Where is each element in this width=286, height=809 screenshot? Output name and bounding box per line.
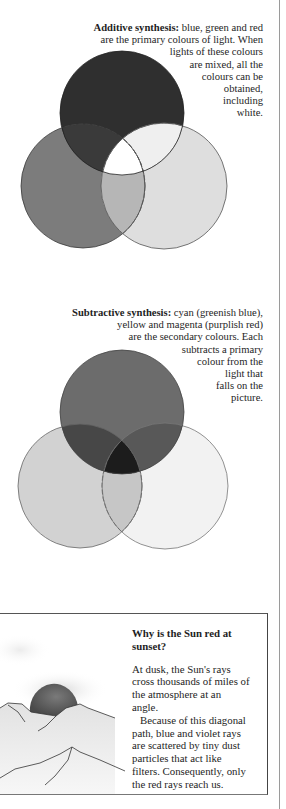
sunset-illustration xyxy=(0,614,130,794)
subtractive-text: cyan (greenish blue), xyxy=(171,307,263,318)
sunset-body-line: filters. Consequently, only xyxy=(132,765,266,778)
sunset-body-line: Because of this diagonal xyxy=(132,714,266,727)
subtractive-caption-line: yellow and magenta (purplish red) xyxy=(72,319,263,331)
sunset-body: At dusk, the Sun's rays cross thousands … xyxy=(132,663,266,791)
sunset-title-line: Why is the Sun red at xyxy=(132,627,266,640)
subtractive-venn-diagram xyxy=(0,340,286,560)
sunset-body-line: At dusk, the Sun's rays xyxy=(132,663,266,676)
sunset-text-column: Why is the Sun red at sunset? At dusk, t… xyxy=(132,627,266,791)
subtractive-caption-line-1: Subtractive synthesis: cyan (greenish bl… xyxy=(72,307,263,319)
sunset-title-line: sunset? xyxy=(132,640,266,653)
sunset-body-line: the atmosphere at an xyxy=(132,688,266,701)
sunset-body-line: path, blue and violet rays xyxy=(132,727,266,740)
sunset-body-line: the red rays reach us. xyxy=(132,778,266,791)
subtractive-heading: Subtractive synthesis: xyxy=(72,307,171,318)
sunset-body-line: angle. xyxy=(132,701,266,714)
sunset-title: Why is the Sun red at sunset? xyxy=(132,627,266,653)
sunset-body-line: particles that act like xyxy=(132,752,266,765)
sunset-body-line: are scattered by tiny dust xyxy=(132,739,266,752)
sunset-body-line: cross thousands of miles of xyxy=(132,675,266,688)
additive-venn-diagram xyxy=(0,0,286,260)
